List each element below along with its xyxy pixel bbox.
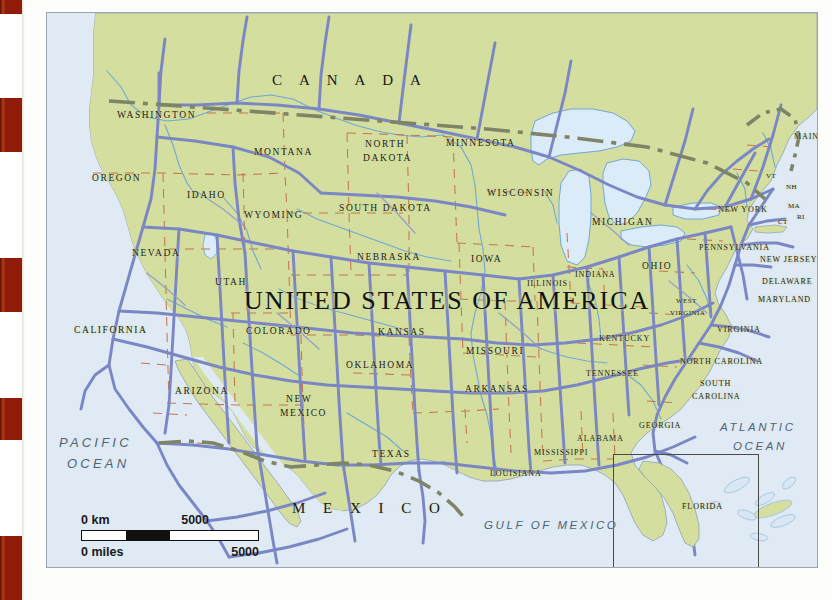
state-label-carolina: CAROLINA bbox=[692, 393, 741, 401]
state-label-washington: WASHINGTON bbox=[117, 111, 196, 121]
state-label-ma: MA bbox=[788, 203, 800, 210]
state-label-texas: TEXAS bbox=[372, 450, 411, 460]
country-label-canada: C A N A D A bbox=[272, 73, 428, 88]
state-label-wisconsin: WISCONSIN bbox=[487, 189, 554, 199]
state-label-colorado: COLORADO bbox=[246, 327, 312, 337]
lake-michigan bbox=[559, 169, 591, 265]
state-label-alabama: ALABAMA bbox=[577, 435, 624, 443]
scale-miles-row: 0 miles 5000 bbox=[81, 545, 259, 559]
state-label-kentucky: KENTUCKY bbox=[599, 335, 650, 343]
state-label-wyoming: WYOMING bbox=[244, 211, 303, 221]
scale-miles-end: 5000 bbox=[231, 545, 259, 559]
state-label-nh: NH bbox=[786, 184, 797, 191]
scale-km-row: 0 km 5000 bbox=[81, 513, 209, 527]
ocean-label-pacific-line2: OCEAN bbox=[67, 457, 129, 470]
state-label-ri: RI bbox=[797, 214, 805, 221]
state-label-arkansas: ARKANSAS bbox=[465, 385, 529, 395]
state-label-maryland: MARYLAND bbox=[758, 296, 811, 304]
state-label-mexico: MEXICO bbox=[280, 409, 327, 419]
state-label-pennsylvania: PENNSYLVANIA bbox=[699, 244, 770, 252]
state-label-illinois: ILLINOIS bbox=[527, 280, 568, 288]
state-label-idaho: IDAHO bbox=[187, 191, 226, 201]
state-label-michigan: MICHIGAN bbox=[592, 218, 653, 228]
state-label-south-dakota: SOUTH DAKOTA bbox=[339, 204, 432, 214]
map-title: UNITED STATES OF AMERICA bbox=[244, 288, 650, 314]
state-label-north: NORTH bbox=[365, 140, 405, 150]
ocean-label-pacific-line1: PACIFIC bbox=[59, 436, 132, 449]
page-edge-tab bbox=[0, 14, 22, 98]
state-label-virginia: VIRGINIA bbox=[717, 326, 761, 334]
state-label-new-york: NEW YORK bbox=[718, 206, 768, 214]
state-label-nebraska: NEBRASKA bbox=[357, 253, 421, 263]
state-label-indiana: INDIANA bbox=[575, 271, 616, 279]
great-salt-lake bbox=[203, 233, 217, 259]
state-label-delaware: DELAWARE bbox=[762, 278, 813, 286]
scale-km-end: 5000 bbox=[181, 513, 209, 527]
state-label-iowa: IOWA bbox=[471, 255, 502, 265]
scale-km-start: 0 km bbox=[81, 513, 110, 527]
state-label-virginia: VIRGINIA bbox=[670, 310, 705, 317]
state-label-florida: FLORIDA bbox=[682, 503, 723, 511]
state-label-arizona: ARIZONA bbox=[175, 387, 229, 397]
state-label-mississippi: MISSISSIPPI bbox=[534, 449, 588, 457]
state-label-louisiana: LOUISIANA bbox=[490, 470, 542, 478]
state-label-utah: UTAH bbox=[215, 278, 247, 288]
page-edge-tab bbox=[0, 440, 22, 536]
state-label-west: WEST bbox=[676, 298, 697, 305]
atlas-page: C A N A D A M E X I C O UNITED STATES OF… bbox=[0, 0, 832, 600]
state-label-nevada: NEVADA bbox=[132, 249, 180, 259]
state-label-ohio: OHIO bbox=[642, 262, 672, 272]
state-label-dakota: DAKOTA bbox=[363, 154, 412, 164]
scale-bar: 0 km 5000 0 miles 5000 bbox=[81, 513, 271, 559]
state-label-new: NEW bbox=[286, 395, 312, 405]
state-label-new-jersey: NEW JERSEY bbox=[760, 256, 818, 264]
long-island bbox=[755, 225, 787, 233]
ocean-label-atlantic-line2: OCEAN bbox=[733, 441, 787, 453]
ocean-label-gulf-of-mexico: GULF OF MEXICO bbox=[484, 520, 618, 532]
state-label-montana: MONTANA bbox=[254, 148, 313, 158]
state-label-tennessee: TENNESSEE bbox=[586, 370, 639, 378]
country-label-mexico: M E X I C O bbox=[292, 501, 447, 516]
scale-bar-graphic bbox=[81, 530, 259, 541]
state-label-georgia: GEORGIA bbox=[639, 422, 681, 430]
inset-highlight-rectangle[interactable] bbox=[613, 454, 759, 568]
scale-miles-start: 0 miles bbox=[81, 545, 123, 559]
state-label-north-carolina: NORTH CAROLINA bbox=[680, 358, 763, 366]
ocean-label-atlantic-line1: ATLANTIC bbox=[720, 422, 796, 434]
state-label-california: CALIFORNIA bbox=[74, 326, 148, 336]
state-label-kansas: KANSAS bbox=[378, 328, 426, 338]
state-label-missouri: MISSOURI bbox=[466, 347, 524, 357]
state-label-vt: VT bbox=[766, 173, 776, 180]
state-label-maine: MAINE bbox=[794, 133, 818, 141]
state-label-minnesota: MINNESOTA bbox=[446, 139, 516, 149]
state-label-ct: CT bbox=[778, 219, 788, 226]
page-edge-tab bbox=[0, 312, 22, 398]
state-label-south: SOUTH bbox=[700, 380, 731, 388]
state-label-oregon: OREGON bbox=[92, 174, 141, 184]
state-label-oklahoma: OKLAHOMA bbox=[346, 361, 414, 371]
map-canvas[interactable]: C A N A D A M E X I C O UNITED STATES OF… bbox=[46, 12, 818, 568]
page-edge-tab bbox=[0, 152, 22, 258]
